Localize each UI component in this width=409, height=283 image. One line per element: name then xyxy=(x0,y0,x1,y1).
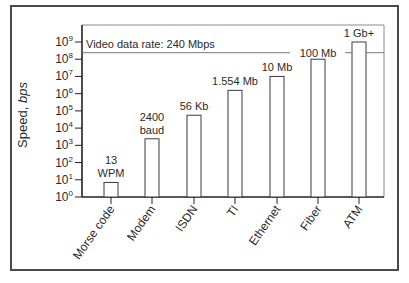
bar-value-label: baud xyxy=(140,124,164,136)
bar-ti xyxy=(228,90,242,197)
bar-isdn xyxy=(187,115,201,197)
y-tick-label: 101 xyxy=(55,172,73,187)
x-tick-label: ATM xyxy=(340,203,365,231)
bar-value-label: 1 Gb+ xyxy=(344,27,374,39)
y-tick-label: 104 xyxy=(55,120,73,135)
y-axis-title-italic: bps xyxy=(15,82,30,103)
y-tick-label: 103 xyxy=(55,137,73,152)
y-tick-label: 108 xyxy=(55,51,73,66)
y-tick-label: 107 xyxy=(55,68,73,83)
bar-ethernet xyxy=(270,76,284,197)
bar-chart: 100101102103104105106107108109Video data… xyxy=(0,0,409,283)
bar-value-label: 2400 xyxy=(140,111,164,123)
y-tick-label: 106 xyxy=(55,86,73,101)
bar-value-label: 13 xyxy=(105,154,117,166)
bar-value-label: 10 Mb xyxy=(262,61,293,73)
x-tick-label: TI xyxy=(224,203,242,220)
y-tick-label: 109 xyxy=(55,34,73,49)
bar-value-label: WPM xyxy=(98,167,125,179)
bar-value-label: 1.554 Mb xyxy=(212,75,258,87)
y-axis-title: Speed, bps xyxy=(15,82,30,148)
bar-morse-code xyxy=(104,182,118,197)
x-tick-label: Ethernet xyxy=(246,202,284,248)
bar-value-label: 56 Kb xyxy=(180,100,209,112)
x-tick-label: Morse code xyxy=(70,202,118,262)
bar-atm xyxy=(352,42,366,197)
bar-modem xyxy=(145,139,159,197)
reference-line-label: Video data rate: 240 Mbps xyxy=(86,38,215,50)
x-tick-label: ISDN xyxy=(173,203,201,235)
y-tick-label: 102 xyxy=(55,155,73,170)
y-axis-title-main: Speed, xyxy=(15,103,30,148)
y-tick-label: 105 xyxy=(55,103,73,118)
x-tick-label: Modem xyxy=(124,203,158,244)
y-tick-label: 100 xyxy=(55,189,73,204)
x-tick-label: Fiber xyxy=(297,203,324,233)
bar-fiber xyxy=(311,59,325,197)
bar-value-label: 100 Mb xyxy=(300,47,337,59)
